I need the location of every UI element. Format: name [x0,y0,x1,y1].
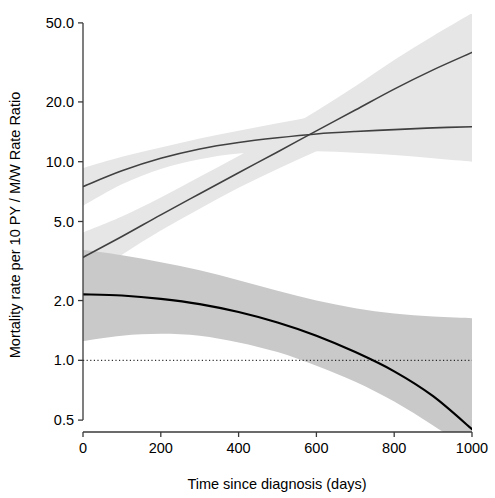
y-tick-label-5: 20.0 [46,94,74,110]
y-tick-label-4: 10.0 [46,154,74,170]
x-tick-label-5: 1000 [456,440,488,456]
x-tick-label-1: 200 [149,440,173,456]
x-axis-title: Time since diagnosis (days) [187,476,366,492]
y-tick-label-6: 50.0 [46,15,74,31]
x-tick-label-3: 600 [304,440,328,456]
y-tick-label-0: 0.5 [54,412,74,428]
chart-figure: 0.51.02.05.010.020.050.00200400600800100… [0,0,495,498]
x-tick-label-0: 0 [79,440,87,456]
y-tick-label-3: 5.0 [54,214,74,230]
x-tick-label-2: 400 [226,440,250,456]
y-tick-label-1: 1.0 [54,352,74,368]
y-axis-title: Mortality rate per 10 PY / M/W Rate Rati… [7,92,23,358]
mortality-rate-ratio-chart: 0.51.02.05.010.020.050.00200400600800100… [0,0,495,498]
y-tick-label-2: 2.0 [54,293,74,309]
x-tick-label-4: 800 [382,440,406,456]
